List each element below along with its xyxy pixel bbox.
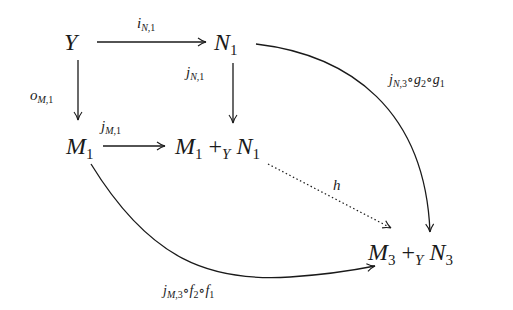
label-jn3-g2-g1: jN,3∘g2∘g1 (389, 73, 445, 89)
pushout1-left: M (175, 133, 195, 159)
label-jm-sub-it: M (105, 125, 113, 136)
node-y: Y (64, 30, 77, 54)
label-o-sub-it: M (38, 94, 46, 105)
label-o-sub-n: ,1 (46, 94, 54, 105)
pushout3-right-sub: 3 (445, 252, 453, 268)
label-j-m1: jM,1 (101, 119, 121, 136)
fM-sub-it: M (167, 289, 175, 300)
node-n1-base: N (214, 29, 230, 55)
label-h: h (333, 178, 341, 193)
gN-g1: 1 (440, 78, 445, 89)
node-n1: N1 (214, 30, 238, 58)
pushout1-op-sub: Y (222, 146, 230, 162)
pushout1-left-sub: 1 (195, 146, 203, 162)
pushout1-right-sub: 1 (252, 146, 260, 162)
gN-compose-1: ∘ (407, 72, 414, 87)
gN-sub-n: ,3 (400, 78, 408, 89)
node-pushout-1: M1 +Y N1 (175, 134, 260, 162)
gN-sub-it: N (393, 78, 400, 89)
node-n1-sub: 1 (230, 42, 238, 58)
label-j-n1: jN,1 (186, 65, 204, 82)
label-i-sub-n: ,1 (148, 22, 156, 33)
pushout3-op-sub: Y (415, 252, 423, 268)
label-o-base: o (30, 87, 38, 103)
gN-compose-2: ∘ (426, 72, 433, 87)
node-m1: M1 (66, 134, 94, 162)
fM-f1: 1 (209, 289, 214, 300)
fM-compose-1: ∘ (183, 283, 190, 298)
label-i-sub-it: N (141, 22, 148, 33)
label-jn-sub-n: ,1 (197, 71, 205, 82)
pushout3-left-sub: 3 (388, 252, 396, 268)
pushout3-left: M (368, 239, 388, 265)
label-jm-sub-n: ,1 (114, 125, 122, 136)
node-y-label: Y (64, 29, 77, 55)
gN-g: g (414, 72, 421, 87)
label-i-n1: iN,1 (137, 16, 155, 33)
pushout3-right: N (429, 239, 445, 265)
label-o-m1: oM,1 (30, 88, 53, 105)
arrow-h-dotted (268, 164, 391, 228)
gN-g-b: g (433, 72, 440, 87)
label-jn-sub-it: N (190, 71, 197, 82)
node-m1-sub: 1 (86, 146, 94, 162)
label-h-text: h (333, 177, 341, 193)
node-pushout-3: M3 +Y N3 (368, 240, 453, 268)
label-jm3-f2-f1: jM,3∘f2∘f1 (163, 284, 214, 300)
pushout1-op: + (209, 133, 223, 159)
pushout1-right: N (236, 133, 252, 159)
node-m1-base: M (66, 133, 86, 159)
pushout3-op: + (402, 239, 416, 265)
fM-sub-n: ,3 (175, 289, 183, 300)
